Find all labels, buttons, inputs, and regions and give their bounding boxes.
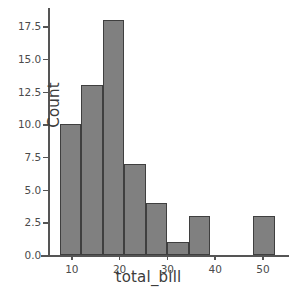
histogram-figure: 0.02.55.07.510.012.515.017.5 1020304050 … (0, 0, 297, 291)
y-tick-label: 15.0 (18, 53, 41, 65)
x-tick-mark (167, 255, 168, 260)
y-tick-label: 5.0 (25, 184, 41, 196)
x-tick-mark (214, 255, 215, 260)
x-tick-mark (262, 255, 263, 260)
histogram-bar (167, 242, 188, 255)
x-tick-mark (71, 255, 72, 260)
histogram-bar (103, 20, 124, 255)
y-tick-mark (43, 26, 48, 27)
y-tick-mark (43, 222, 48, 223)
x-tick-mark (119, 255, 120, 260)
y-tick-label: 0.0 (25, 249, 41, 261)
histogram-bar (253, 216, 274, 255)
y-tick-label: 17.5 (18, 20, 41, 32)
y-tick-label: 12.5 (18, 86, 41, 98)
y-tick-label: 10.0 (18, 118, 41, 130)
histogram-bar (124, 164, 145, 255)
x-axis-spine (41, 255, 289, 257)
histogram-bar (189, 216, 210, 255)
histogram-bar (81, 85, 102, 255)
plot-area: 0.02.55.07.510.012.515.017.5 1020304050 (48, 8, 282, 255)
y-tick-label: 2.5 (25, 216, 41, 228)
y-axis-label: Count (45, 45, 63, 165)
y-tick-mark (43, 255, 48, 256)
x-axis-label: total_bill (0, 268, 297, 286)
histogram-bar (60, 124, 81, 255)
histogram-bar (146, 203, 167, 255)
y-tick-mark (43, 190, 48, 191)
y-tick-label: 7.5 (25, 151, 41, 163)
